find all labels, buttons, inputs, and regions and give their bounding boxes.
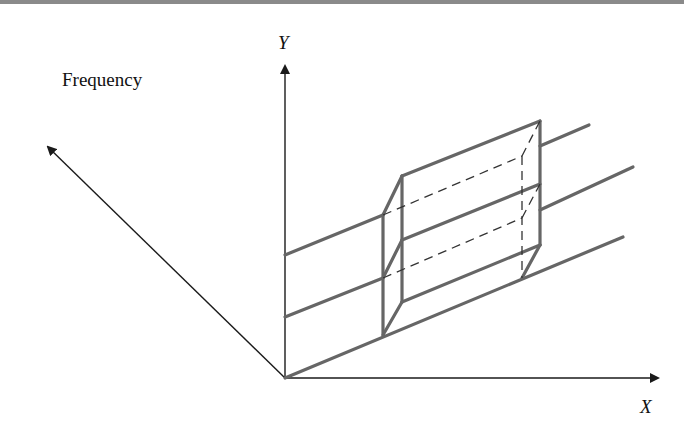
frequency-axis: [48, 147, 285, 378]
middle-line-left: [285, 278, 383, 317]
middle-line-right: [540, 167, 633, 210]
bottom-line: [285, 237, 623, 378]
diagram-canvas: [0, 0, 684, 440]
top-line-right: [540, 125, 589, 146]
y-axis-label: Y: [278, 32, 289, 54]
surface-lines: [285, 125, 633, 378]
frequency-axis-label: Frequency: [62, 69, 142, 91]
x-axis-label: X: [640, 396, 652, 418]
top-line-left: [285, 215, 383, 255]
axes: [48, 66, 658, 378]
